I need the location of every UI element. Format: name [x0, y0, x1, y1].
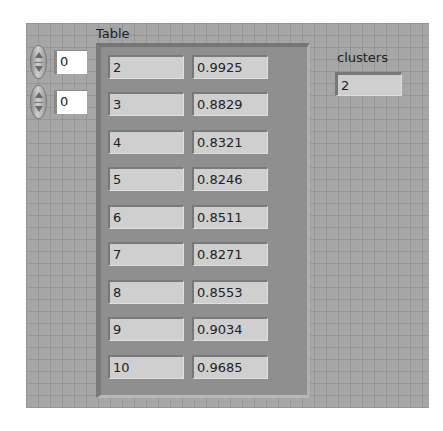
table-label: Table: [96, 26, 130, 41]
table-cell[interactable]: 0.8829: [192, 92, 268, 116]
clusters-label: clusters: [337, 50, 388, 65]
table-cell[interactable]: 0.8246: [192, 167, 268, 191]
front-panel: Table 0 0 2 0.9925 3 0.8829 4 0.8321 5 0…: [26, 23, 429, 408]
table-cell[interactable]: 7: [108, 242, 184, 266]
table-cell[interactable]: 0.9925: [192, 55, 268, 79]
table-cell[interactable]: 4: [108, 130, 184, 154]
column-index-spinner[interactable]: [30, 85, 47, 119]
table-cell[interactable]: 10: [108, 355, 184, 379]
increment-arrow-icon[interactable]: [35, 92, 43, 98]
increment-arrow-icon[interactable]: [35, 52, 43, 58]
divider: [34, 102, 43, 103]
table-cell[interactable]: 0.8271: [192, 242, 268, 266]
divider: [34, 62, 43, 63]
decrement-arrow-icon[interactable]: [35, 66, 43, 72]
table-cell[interactable]: 3: [108, 92, 184, 116]
column-index-input[interactable]: 0: [54, 90, 87, 114]
table-cell[interactable]: 6: [108, 205, 184, 229]
table-cell[interactable]: 0.8321: [192, 130, 268, 154]
table: 2 0.9925 3 0.8829 4 0.8321 5 0.8246 6 0.…: [96, 43, 310, 398]
row-index-input[interactable]: 0: [54, 50, 87, 74]
table-cell[interactable]: 2: [108, 55, 184, 79]
clusters-indicator: 2: [335, 72, 402, 96]
decrement-arrow-icon[interactable]: [35, 106, 43, 112]
table-cell[interactable]: 0.8511: [192, 205, 268, 229]
table-cell[interactable]: 5: [108, 167, 184, 191]
table-cell[interactable]: 0.9034: [192, 317, 268, 341]
table-cell[interactable]: 8: [108, 280, 184, 304]
table-cell[interactable]: 0.8553: [192, 280, 268, 304]
row-index-spinner[interactable]: [30, 45, 47, 79]
table-cell[interactable]: 0.9685: [192, 355, 268, 379]
table-cell[interactable]: 9: [108, 317, 184, 341]
